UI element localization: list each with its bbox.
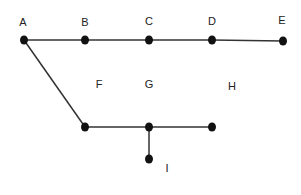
node-d bbox=[208, 36, 216, 45]
graph-svg: ABCDEFGHI bbox=[0, 0, 301, 195]
node-h bbox=[208, 123, 216, 132]
node-label-b: B bbox=[81, 16, 88, 28]
node-label-d: D bbox=[208, 15, 216, 27]
node-b bbox=[81, 36, 89, 45]
nodes-group bbox=[20, 36, 287, 164]
node-label-e: E bbox=[278, 14, 285, 26]
node-label-f: F bbox=[96, 78, 103, 90]
node-f bbox=[81, 123, 89, 132]
node-i bbox=[145, 155, 153, 164]
edges-group bbox=[24, 40, 283, 159]
node-label-c: C bbox=[145, 15, 153, 27]
node-a bbox=[20, 36, 28, 45]
node-label-g: G bbox=[145, 78, 154, 90]
node-label-i: I bbox=[165, 162, 168, 174]
node-c bbox=[145, 36, 153, 45]
node-e bbox=[279, 37, 287, 46]
edge-d-e bbox=[212, 40, 283, 41]
edge-a-f bbox=[24, 40, 85, 127]
graph-diagram: ABCDEFGHI bbox=[0, 0, 301, 195]
node-label-h: H bbox=[228, 80, 236, 92]
node-g bbox=[145, 123, 153, 132]
node-label-a: A bbox=[19, 16, 27, 28]
